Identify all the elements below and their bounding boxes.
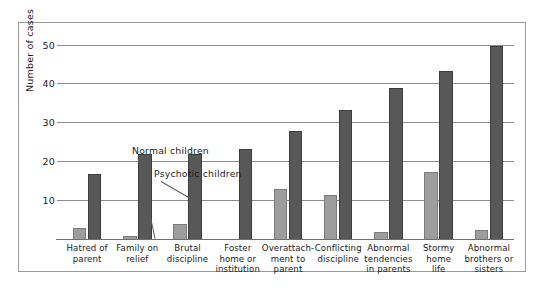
bar-psychotic <box>389 88 403 240</box>
bar-normal <box>173 224 187 240</box>
bar-group <box>464 30 514 240</box>
y-tick-label-40: 40 <box>43 78 56 89</box>
bar-normal <box>424 172 438 240</box>
x-axis-baseline <box>56 239 514 240</box>
category-labels: Hatred ofparentFamily onreliefBrutaldisc… <box>62 243 514 277</box>
bar-group <box>363 30 413 240</box>
y-tick-label-20: 20 <box>43 156 56 167</box>
bar-normal <box>324 195 338 240</box>
bar-psychotic <box>88 174 102 240</box>
category-label-line: Abnormal <box>457 243 521 254</box>
bar-psychotic <box>439 71 453 240</box>
y-tick-label-30: 30 <box>43 117 56 128</box>
bar-psychotic <box>339 110 353 240</box>
category-label: Abnormalbrothers orsisters <box>457 243 521 275</box>
bar-group <box>313 30 363 240</box>
bar-psychotic <box>239 149 253 240</box>
bar-group <box>162 30 212 240</box>
category-label-line: parent <box>256 264 320 275</box>
bar-group <box>112 30 162 240</box>
bar-psychotic <box>289 131 303 240</box>
y-tick-label-50: 50 <box>43 39 56 50</box>
annotation-normal-children: Normal children <box>132 145 209 156</box>
y-tick-label-10: 10 <box>43 195 56 206</box>
y-axis-title: Number of cases <box>24 9 35 92</box>
bar-psychotic <box>490 46 504 240</box>
annotation-psychotic-children: Psychotic children <box>154 168 242 179</box>
plot-area: 1020304050 Normal children Psychotic chi… <box>62 30 514 240</box>
bar-group <box>263 30 313 240</box>
category-label-line: sisters <box>457 264 521 275</box>
chart-figure: Number of cases 1020304050 Normal childr… <box>0 0 546 302</box>
bar-groups <box>62 30 514 240</box>
bar-group <box>213 30 263 240</box>
category-label-line: brothers or <box>457 254 521 265</box>
bar-group <box>62 30 112 240</box>
bar-normal <box>274 189 288 240</box>
bar-group <box>414 30 464 240</box>
